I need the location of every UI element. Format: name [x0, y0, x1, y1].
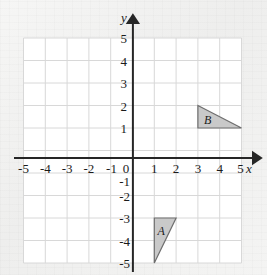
- y-axis-name-label: y: [119, 10, 127, 25]
- y-tick-5: 5: [121, 31, 128, 46]
- x-tick-neg3: -3: [62, 161, 73, 176]
- triangle-a-label: A: [157, 224, 166, 238]
- x-tick-neg4: -4: [40, 161, 51, 176]
- x-tick-5: 5: [237, 161, 244, 176]
- y-tick-neg1: -1: [119, 174, 130, 189]
- triangle-b-label: B: [204, 113, 212, 127]
- y-tick-neg4: -4: [119, 234, 130, 249]
- y-tick-neg2: -2: [119, 189, 130, 204]
- y-tick-2: 2: [121, 99, 128, 114]
- x-tick-neg2: -2: [83, 161, 94, 176]
- y-tick-4: 4: [121, 54, 128, 69]
- coordinate-plot: B A -5 -4 -3 -2 -1 0 1 2 3 4 5 5 4 3: [0, 0, 267, 275]
- x-axis-name-label: x: [245, 161, 252, 176]
- coordinate-plane-figure: B A -5 -4 -3 -2 -1 0 1 2 3 4 5 5 4 3: [0, 0, 267, 275]
- y-tick-1: 1: [121, 121, 128, 136]
- x-tick-3: 3: [195, 161, 202, 176]
- x-tick-4: 4: [216, 161, 223, 176]
- x-tick-neg5: -5: [18, 161, 29, 176]
- x-tick-2: 2: [173, 161, 180, 176]
- x-tick-1: 1: [151, 161, 158, 176]
- y-axis-tick-labels-negative: -1 -2 -3 -4 -5: [119, 174, 130, 271]
- y-tick-3: 3: [121, 76, 128, 91]
- y-tick-neg3: -3: [119, 211, 130, 226]
- x-tick-neg1: -1: [106, 161, 117, 176]
- y-tick-neg5: -5: [119, 256, 130, 271]
